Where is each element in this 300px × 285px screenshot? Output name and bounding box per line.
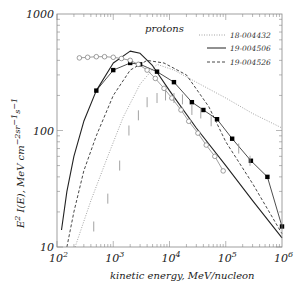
plot-area (62, 51, 285, 247)
y-tick-label: 1000 (26, 8, 54, 21)
y-axis-title: E2 I(E), MeV cm−2sr−1s−1 (10, 98, 26, 229)
series-3 (94, 61, 284, 229)
annotation-protons: protons (145, 23, 184, 34)
legend-label-2: 19-004506 (230, 44, 271, 53)
series-1 (62, 51, 283, 238)
series-0 (75, 64, 282, 247)
x-tick-label: 106 (274, 250, 293, 265)
legend-label-1: 18-004432 (230, 31, 271, 40)
x-tick-label: 103 (105, 250, 124, 265)
x-tick-label: 104 (162, 250, 181, 265)
x-axis-title: kinetic energy, MeV/nucleon (110, 270, 255, 281)
legend-label-3: 19-004526 (230, 58, 271, 67)
legend: 18-004432 19-004506 19-004526 (199, 31, 271, 67)
series-2 (67, 60, 282, 247)
chart: 102103104105106101001000 protons 18-0044… (0, 0, 300, 285)
x-tick-label: 105 (218, 250, 237, 265)
series-4 (77, 54, 225, 173)
y-tick-label: 100 (33, 125, 54, 138)
series-5 (94, 90, 250, 231)
y-tick-label: 10 (40, 241, 54, 254)
